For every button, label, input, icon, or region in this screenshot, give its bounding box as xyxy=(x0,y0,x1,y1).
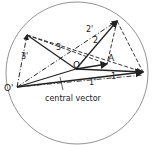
label-2: 2 xyxy=(93,36,98,45)
vector-oa xyxy=(76,64,107,69)
label-a: A xyxy=(108,53,115,63)
diagram-canvas: O' O A 3' 3 2 2' 1 1' central vector xyxy=(0,0,152,145)
vector-3-prime xyxy=(17,35,27,87)
label-3-prime: 3' xyxy=(21,52,28,61)
vector-1 xyxy=(76,69,143,72)
boundary-circle xyxy=(6,2,148,144)
label-1: 1 xyxy=(111,72,116,81)
caption-central-vector: central vector xyxy=(45,94,102,103)
label-o: O xyxy=(73,60,80,70)
label-1-prime: 1' xyxy=(89,78,96,87)
dashed-3-1 xyxy=(27,35,143,72)
label-2-prime: 2' xyxy=(86,25,93,34)
label-3: 3 xyxy=(56,43,61,52)
caption-leader xyxy=(60,77,63,90)
dashed-2-1 xyxy=(117,21,143,72)
vector-circle-diagram: O' O A 3' 3 2 2' 1 1' central vector xyxy=(0,0,152,145)
vector-o-prime-o xyxy=(17,69,76,87)
label-o-prime: O' xyxy=(4,83,14,93)
